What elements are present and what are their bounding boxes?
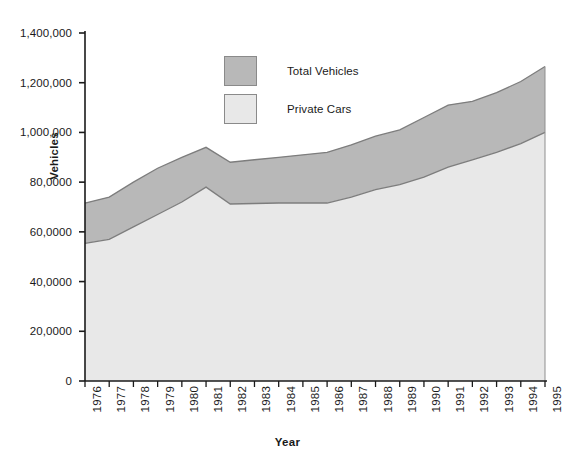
x-axis-title: Year [0,436,575,448]
x-axis-tick-label: 1979 [164,386,176,432]
x-axis-tick-label: 1977 [115,386,127,432]
x-axis-tick-label: 1986 [333,386,345,432]
legend-label-private-cars: Private Cars [287,103,351,115]
x-axis-tick-label: 1995 [551,386,563,432]
chart-legend: Total Vehicles Private Cars [224,54,359,130]
legend-swatch-total-vehicles [224,56,257,86]
x-axis-tick-label: 1985 [309,386,321,432]
x-axis-tick-label: 1987 [357,386,369,432]
x-axis-tick-label: 1990 [430,386,442,432]
x-axis-tick-label: 1992 [478,386,490,432]
x-axis-tick-label: 1988 [382,386,394,432]
x-axis-tick-label: 1983 [260,386,272,432]
x-axis-tick-label: 1991 [454,386,466,432]
x-axis-tick-label: 1980 [188,386,200,432]
legend-label-total-vehicles: Total Vehicles [287,65,359,77]
chart-figure: Vehicles 020,000040,000060,000080,00001,… [0,0,575,464]
x-axis-tick-label: 1982 [236,386,248,432]
legend-item-private-cars: Private Cars [224,92,359,126]
legend-item-total-vehicles: Total Vehicles [224,54,359,88]
x-axis-tick-label: 1993 [503,386,515,432]
x-axis-tick-label: 1994 [527,386,539,432]
x-axis-tick-label: 1984 [285,386,297,432]
x-axis-tick-label: 1989 [406,386,418,432]
x-axis-tick-label: 1978 [139,386,151,432]
legend-swatch-private-cars [224,94,257,124]
x-axis-tick-label: 1981 [212,386,224,432]
x-axis-tick-label: 1976 [91,386,103,432]
